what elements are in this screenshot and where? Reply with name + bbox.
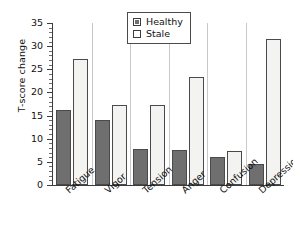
y-tick-minor [49, 143, 52, 144]
x-axis-line [52, 185, 284, 186]
y-tick-minor [49, 134, 52, 135]
y-tick-minor [49, 125, 52, 126]
y-tick-minor [49, 60, 52, 61]
y-tick-minor [49, 65, 52, 66]
y-tick-minor [49, 102, 52, 103]
y-tick-minor [49, 37, 52, 38]
legend-item-stale[interactable]: Stale [133, 28, 183, 40]
legend-swatch-stale-icon [133, 30, 141, 38]
legend-swatch-healthy-icon [133, 18, 141, 26]
y-tick-label: 0 [20, 180, 43, 190]
y-tick-minor [49, 171, 52, 172]
bar-chart: T-score change 05101520253035 FatigueVig… [0, 0, 293, 243]
legend-label-stale: Stale [146, 29, 170, 39]
y-tick-minor [49, 166, 52, 167]
y-tick-label: 35 [20, 18, 43, 28]
y-tick-minor [49, 106, 52, 107]
y-tick-label: 25 [20, 64, 43, 74]
y-tick-minor [49, 129, 52, 130]
y-tick-minor [49, 32, 52, 33]
group-separator [169, 23, 170, 185]
y-tick-minor [49, 176, 52, 177]
y-tick-minor [49, 55, 52, 56]
y-tick-minor [49, 79, 52, 80]
group-separator [130, 23, 131, 185]
y-tick-major [47, 185, 52, 186]
y-tick-minor [49, 51, 52, 52]
group-separator [207, 23, 208, 185]
y-tick-minor [49, 148, 52, 149]
y-tick-label: 10 [20, 134, 43, 144]
y-tick-minor [49, 42, 52, 43]
y-tick-minor [49, 180, 52, 181]
legend: Healthy Stale [127, 12, 191, 44]
y-tick-label: 20 [20, 87, 43, 97]
legend-item-healthy[interactable]: Healthy [133, 16, 183, 28]
bar-depression-stale [266, 39, 281, 185]
group-separator [92, 23, 93, 185]
y-tick-major [47, 162, 52, 163]
y-tick-major [47, 46, 52, 47]
y-tick-major [47, 23, 52, 24]
bar-anger-healthy [172, 150, 187, 185]
legend-label-healthy: Healthy [146, 17, 183, 27]
bar-vigor-healthy [95, 120, 110, 185]
y-tick-major [47, 116, 52, 117]
y-tick-major [47, 92, 52, 93]
y-tick-major [47, 139, 52, 140]
y-tick-minor [49, 97, 52, 98]
y-tick-label: 5 [20, 157, 43, 167]
y-tick-minor [49, 88, 52, 89]
y-tick-minor [49, 157, 52, 158]
y-tick-minor [49, 74, 52, 75]
bar-fatigue-healthy [56, 110, 71, 185]
y-tick-label: 15 [20, 111, 43, 121]
y-tick-label: 30 [20, 41, 43, 51]
bar-tension-healthy [133, 149, 148, 185]
y-tick-major [47, 69, 52, 70]
y-tick-minor [49, 120, 52, 121]
y-tick-minor [49, 28, 52, 29]
y-tick-minor [49, 83, 52, 84]
y-tick-minor [49, 153, 52, 154]
y-tick-minor [49, 111, 52, 112]
